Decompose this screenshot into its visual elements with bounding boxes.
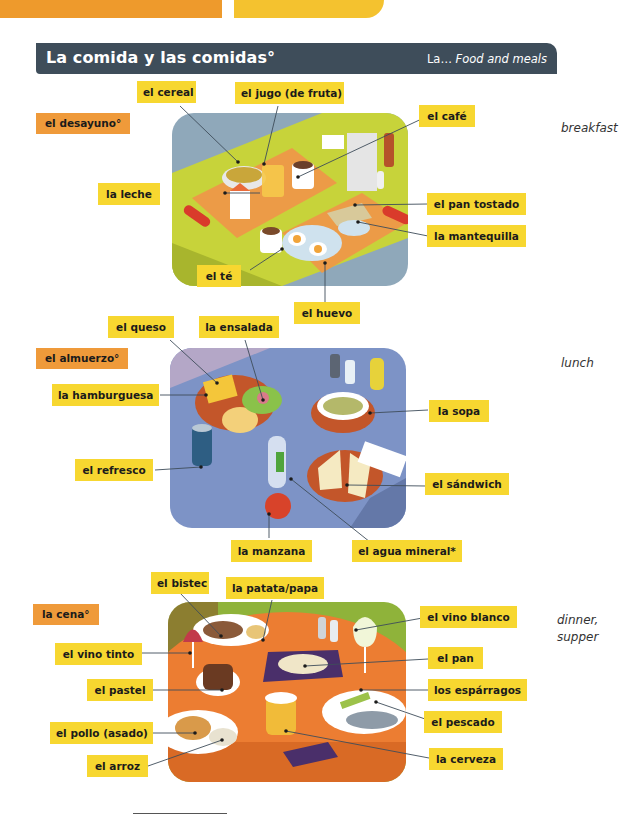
label-tea: el té [197, 265, 241, 287]
chapter-tab-orange [0, 0, 222, 18]
label-milk: la leche [98, 183, 160, 205]
label-apple: la manzana [231, 540, 312, 562]
label-soda: el refresco [75, 459, 153, 481]
label-egg: el huevo [294, 302, 360, 324]
label-cheese: el queso [108, 316, 174, 338]
section-title: La comida y las comidas° [46, 48, 275, 67]
label-soup: la sopa [429, 400, 489, 422]
subtitle-english: Food and meals [456, 52, 547, 66]
label-fish: el pescado [424, 711, 502, 733]
section-header: La comida y las comidas° La… Food and me… [36, 43, 557, 74]
label-cake: el pastel [87, 679, 153, 701]
meal-label-dinner: la cena° [33, 604, 99, 625]
label-juice: el jugo (de fruta) [235, 82, 344, 104]
lunch-illustration [170, 348, 406, 528]
label-hamburger: la hamburguesa [52, 384, 159, 406]
label-bread: el pan [428, 647, 483, 669]
dinner-illustration [168, 602, 406, 782]
label-steak: el bistec [151, 572, 209, 594]
label-butter: la mantequilla [427, 225, 526, 247]
label-sandwich: el sándwich [425, 473, 509, 495]
gloss-dinner: dinner, supper [557, 612, 598, 646]
label-coffee: el café [419, 105, 475, 127]
label-white-wine: el vino blanco [420, 606, 517, 628]
label-red-wine: el vino tinto [55, 643, 142, 665]
label-mineral-water: el agua mineral* [352, 540, 462, 562]
subtitle-prefix: La… [427, 52, 452, 66]
gloss-breakfast: breakfast [561, 120, 618, 137]
label-potato: la patata/papa [226, 577, 324, 599]
breakfast-illustration [172, 113, 408, 286]
label-chicken: el pollo (asado) [50, 722, 153, 744]
footnote-rule [133, 813, 227, 814]
chapter-tab-yellow [234, 0, 384, 18]
label-asparagus: los espárragos [428, 679, 527, 701]
label-salad: la ensalada [199, 316, 279, 338]
label-rice: el arroz [87, 755, 148, 777]
meal-label-breakfast: el desayuno° [36, 113, 130, 134]
gloss-dinner-line1: dinner, [557, 612, 598, 629]
gloss-lunch: lunch [561, 355, 594, 372]
label-toast: el pan tostado [427, 193, 526, 215]
section-subtitle: La… Food and meals [427, 52, 547, 66]
gloss-dinner-line2: supper [557, 629, 598, 646]
meal-label-lunch: el almuerzo° [36, 348, 128, 369]
label-beer: la cerveza [429, 748, 503, 770]
label-cereal: el cereal [137, 81, 196, 103]
